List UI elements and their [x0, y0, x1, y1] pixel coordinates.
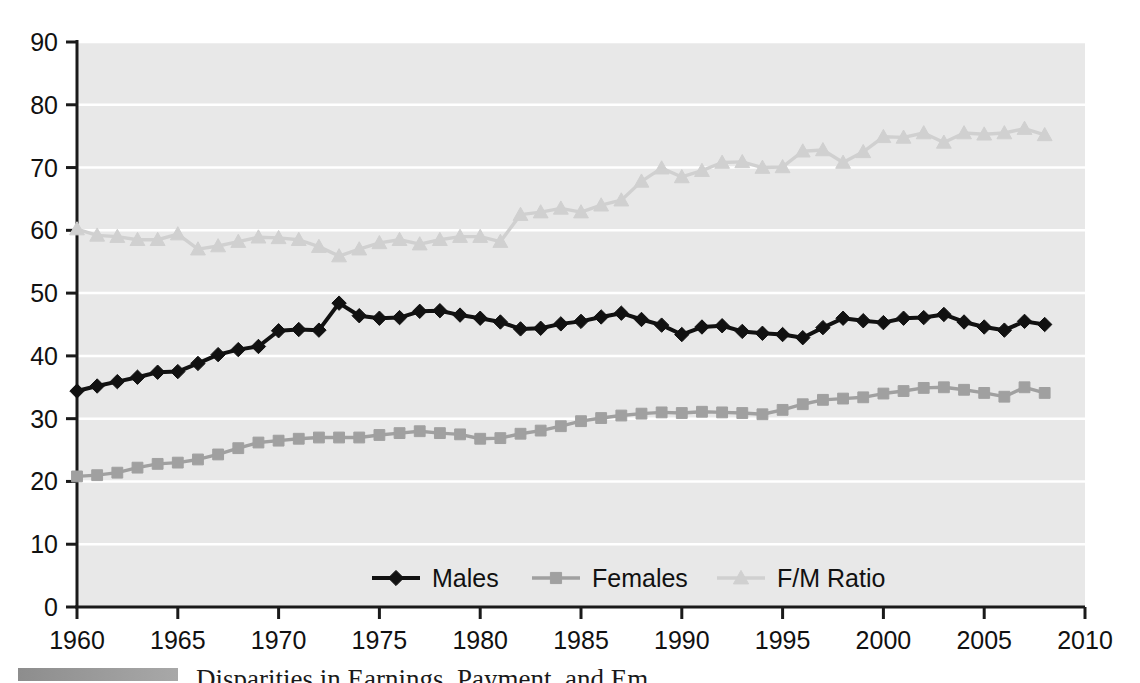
x-tick-label: 1995: [755, 626, 811, 654]
data-point: [1019, 382, 1030, 393]
data-point: [777, 404, 788, 415]
data-point: [797, 399, 808, 410]
y-tick-label: 10: [30, 530, 58, 558]
data-point: [878, 388, 889, 399]
y-tick-label: 50: [30, 279, 58, 307]
x-tick-label: 1970: [251, 626, 307, 654]
data-point: [394, 428, 405, 439]
y-tick-label: 70: [30, 154, 58, 182]
data-point: [979, 388, 990, 399]
caption-marker-bar: [18, 668, 178, 681]
data-point: [72, 471, 83, 482]
legend-label: Females: [592, 564, 688, 592]
data-point: [535, 425, 546, 436]
data-point: [616, 410, 627, 421]
y-tick-label: 30: [30, 405, 58, 433]
y-tick-label: 20: [30, 467, 58, 495]
data-point: [818, 394, 829, 405]
data-point: [918, 382, 929, 393]
data-point: [576, 416, 587, 427]
line-chart: 0102030405060708090196019651970197519801…: [0, 0, 1140, 683]
data-point: [334, 432, 345, 443]
data-point: [938, 382, 949, 393]
data-point: [152, 458, 163, 469]
legend-marker-square-icon: [550, 572, 561, 583]
data-point: [92, 470, 103, 481]
data-point: [354, 432, 365, 443]
data-point: [414, 426, 425, 437]
y-tick-label: 0: [44, 593, 58, 621]
x-axis: 1960196519701975198019851990199520002005…: [49, 607, 1113, 654]
x-tick-label: 2010: [1057, 626, 1113, 654]
data-point: [838, 393, 849, 404]
data-point: [697, 406, 708, 417]
data-point: [475, 433, 486, 444]
y-tick-label: 90: [30, 28, 58, 56]
data-point: [193, 454, 204, 465]
data-point: [293, 433, 304, 444]
data-point: [253, 437, 264, 448]
legend-label: Males: [432, 564, 499, 592]
x-tick-label: 2005: [956, 626, 1012, 654]
data-point: [959, 384, 970, 395]
y-tick-label: 80: [30, 91, 58, 119]
data-point: [717, 407, 728, 418]
data-point: [172, 457, 183, 468]
data-point: [676, 408, 687, 419]
legend: MalesFemalesF/M Ratio: [372, 564, 885, 592]
x-tick-label: 1980: [452, 626, 508, 654]
data-point: [596, 413, 607, 424]
y-tick-label: 40: [30, 342, 58, 370]
y-tick-label: 60: [30, 216, 58, 244]
data-point: [757, 409, 768, 420]
chart-figure: 0102030405060708090196019651970197519801…: [0, 0, 1140, 683]
data-point: [273, 435, 284, 446]
x-tick-label: 1965: [150, 626, 206, 654]
data-point: [112, 467, 123, 478]
x-tick-label: 1975: [352, 626, 408, 654]
x-tick-label: 2000: [856, 626, 912, 654]
data-point: [374, 430, 385, 441]
data-point: [495, 433, 506, 444]
data-point: [737, 408, 748, 419]
x-tick-label: 1990: [654, 626, 710, 654]
caption-text: Disparities in Earnings, Payment, and Em: [196, 664, 648, 683]
legend-label: F/M Ratio: [777, 564, 885, 592]
x-tick-label: 1960: [49, 626, 105, 654]
data-point: [1039, 388, 1050, 399]
x-tick-label: 1985: [553, 626, 609, 654]
data-point: [455, 429, 466, 440]
data-point: [314, 432, 325, 443]
data-point: [213, 449, 224, 460]
data-point: [132, 462, 143, 473]
data-point: [858, 392, 869, 403]
data-point: [636, 408, 647, 419]
data-point: [515, 428, 526, 439]
data-point: [434, 428, 445, 439]
data-point: [656, 407, 667, 418]
data-point: [999, 391, 1010, 402]
y-axis: 0102030405060708090: [30, 28, 77, 621]
data-point: [233, 443, 244, 454]
data-point: [555, 421, 566, 432]
data-point: [898, 386, 909, 397]
